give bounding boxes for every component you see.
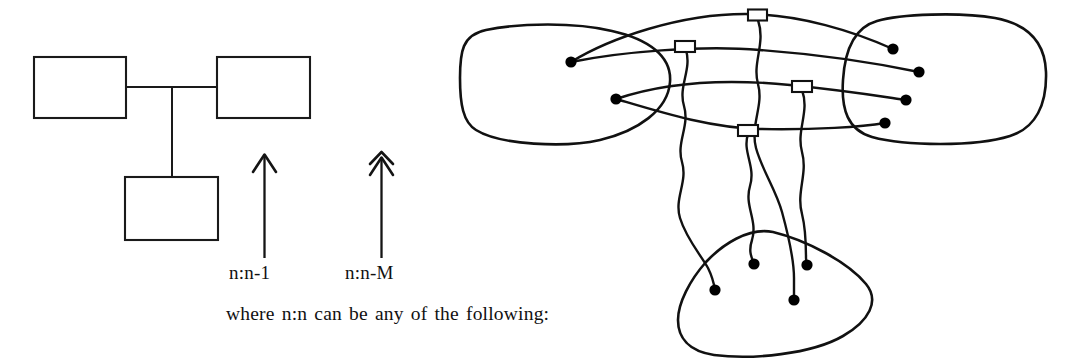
node-dot-bottom-3[interactable] — [788, 294, 799, 305]
node-dot-bottom-4[interactable] — [801, 259, 812, 270]
node-dot-right-2[interactable] — [913, 66, 924, 77]
cardinality-label-n-to-n-minus-M: n:n-M — [345, 262, 394, 284]
box-top-left[interactable] — [34, 57, 126, 118]
edge-L2-R3 — [616, 82, 906, 100]
set-bottom-outline[interactable] — [678, 231, 872, 357]
set-left-outline[interactable] — [460, 25, 670, 145]
link-box-1[interactable] — [748, 10, 767, 21]
single-chevron-up-arrow — [253, 155, 276, 259]
node-dot-bottom-2[interactable] — [748, 258, 759, 269]
edge-wavy-4 — [800, 90, 807, 265]
figure-caption: where n:n can be any of the following: — [226, 303, 549, 325]
link-box-4[interactable] — [738, 125, 758, 136]
node-dot-bottom-1[interactable] — [709, 284, 720, 295]
node-dot-right-4[interactable] — [879, 117, 890, 128]
double-chevron-up-arrow — [370, 152, 393, 258]
edge-wavy-3 — [754, 20, 794, 300]
link-box-2[interactable] — [675, 41, 695, 52]
three-box-relationship-diagram — [34, 57, 310, 240]
node-dot-right-1[interactable] — [887, 43, 898, 54]
edge-wavy-2 — [746, 134, 754, 264]
figure-root: n:n-1 n:n-M where n:n can be any of the … — [0, 0, 1075, 364]
link-box-3[interactable] — [792, 81, 812, 92]
box-top-right[interactable] — [217, 57, 310, 118]
node-dot-left-2[interactable] — [610, 93, 621, 104]
node-dot-right-3[interactable] — [900, 94, 911, 105]
edge-L1-R2 — [571, 48, 919, 72]
cardinality-label-n-to-n-minus-1: n:n-1 — [229, 262, 270, 284]
box-bottom[interactable] — [125, 177, 218, 240]
edge-wavy-1 — [678, 50, 715, 290]
node-dot-left-1[interactable] — [565, 56, 576, 67]
